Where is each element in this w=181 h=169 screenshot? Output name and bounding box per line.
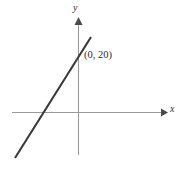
coordinate-plane-svg xyxy=(0,0,181,169)
x-axis-label: x xyxy=(170,104,174,114)
y-axis-arrowhead-icon xyxy=(75,17,83,25)
y-intercept-point-label: (0, 20) xyxy=(84,50,112,61)
x-axis-arrowhead-icon xyxy=(161,109,168,117)
plot-line-segment xyxy=(15,37,91,158)
y-axis-label: y xyxy=(73,3,77,13)
line-graph-figure: y x (0, 20) xyxy=(0,0,181,169)
